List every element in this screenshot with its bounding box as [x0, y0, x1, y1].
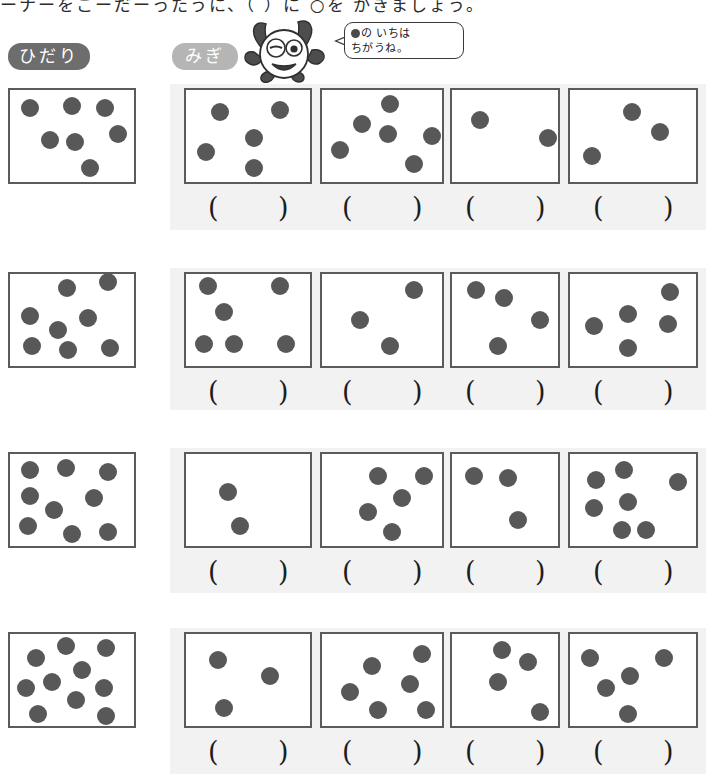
dot-marker [41, 131, 59, 149]
choice-box[interactable] [450, 272, 560, 368]
dot-marker [489, 337, 507, 355]
answer-paren-open: ( [465, 738, 476, 765]
choice-box[interactable] [450, 632, 560, 728]
dot-marker [17, 679, 35, 697]
choice-box[interactable] [450, 88, 560, 184]
choice-box[interactable] [184, 632, 312, 728]
dot-marker [659, 315, 677, 333]
answer-paren-close: ) [412, 738, 423, 765]
label-left-hidari: ひだり [8, 43, 90, 70]
answer-paren-open: ( [465, 194, 476, 221]
dot-marker [619, 705, 637, 723]
dot-marker [245, 129, 263, 147]
dot-marker [215, 699, 233, 717]
worksheet-page: ーナーをこーだーったうに、（ ）に ○を かきましょう。 ひだり みぎ の いち… [0, 0, 706, 778]
dot-marker [67, 691, 85, 709]
dot-marker [369, 701, 387, 719]
left-reference-box [8, 272, 136, 368]
choice-box[interactable] [184, 88, 312, 184]
dot-marker [585, 499, 603, 517]
answer-paren-close: ) [663, 194, 674, 221]
answer-paren-close: ) [663, 738, 674, 765]
choice-box[interactable] [568, 632, 698, 728]
answer-paren-close: ) [535, 558, 546, 585]
choice-box[interactable] [568, 272, 698, 368]
dot-marker [97, 639, 115, 657]
dot-marker [359, 503, 377, 521]
answer-paren-close: ) [278, 558, 289, 585]
choice-box[interactable] [320, 272, 444, 368]
black-circle-icon [351, 29, 360, 38]
dot-marker [423, 127, 441, 145]
choice-box[interactable] [568, 452, 698, 548]
dot-marker [57, 459, 75, 477]
dot-marker [531, 703, 549, 721]
answer-paren-open: ( [593, 558, 604, 585]
dot-marker [101, 339, 119, 357]
dot-marker [401, 675, 419, 693]
answer-paren-open: ( [342, 378, 353, 405]
mascot-speech-bubble: の いちは ちがうね。 [344, 22, 464, 59]
answer-paren-close: ) [278, 738, 289, 765]
dot-marker [499, 469, 517, 487]
dot-marker [57, 637, 75, 655]
dot-marker [661, 283, 679, 301]
top-instruction-text: ーナーをこーだーったうに、（ ）に ○を かきましょう。 [0, 0, 706, 13]
dot-marker [465, 467, 483, 485]
dot-marker [271, 101, 289, 119]
dot-marker [99, 523, 117, 541]
dot-marker [509, 511, 527, 529]
answer-paren-close: ) [278, 194, 289, 221]
answer-paren-open: ( [593, 378, 604, 405]
dot-marker [413, 645, 431, 663]
dot-marker [97, 707, 115, 725]
dot-marker [58, 279, 76, 297]
dot-marker [623, 103, 641, 121]
dot-marker [66, 133, 84, 151]
dot-marker [331, 141, 349, 159]
answer-paren-open: ( [465, 558, 476, 585]
dot-marker [655, 649, 673, 667]
dot-marker [471, 111, 489, 129]
dot-marker [619, 305, 637, 323]
answer-paren-close: ) [535, 738, 546, 765]
dot-marker [29, 705, 47, 723]
dot-marker [23, 337, 41, 355]
choice-box[interactable] [450, 452, 560, 548]
dot-marker [199, 277, 217, 295]
answer-paren-open: ( [342, 738, 353, 765]
dot-marker [277, 335, 295, 353]
dot-marker [245, 159, 263, 177]
dot-marker [231, 517, 249, 535]
dot-marker [219, 483, 237, 501]
choice-box[interactable] [320, 632, 444, 728]
dot-marker [271, 277, 289, 295]
dot-marker [96, 99, 114, 117]
answer-paren-open: ( [208, 738, 219, 765]
dot-marker [619, 339, 637, 357]
dot-marker [19, 517, 37, 535]
choice-box[interactable] [320, 452, 444, 548]
dot-marker [45, 501, 63, 519]
dot-marker [651, 123, 669, 141]
choice-box[interactable] [568, 88, 698, 184]
dot-marker [381, 95, 399, 113]
mascot-character-icon [236, 18, 344, 84]
dot-marker [81, 159, 99, 177]
choice-box[interactable] [320, 88, 444, 184]
choice-box[interactable] [184, 452, 312, 548]
dot-marker [59, 341, 77, 359]
dot-marker [353, 115, 371, 133]
dot-marker [211, 103, 229, 121]
dot-marker [493, 641, 511, 659]
dot-marker [417, 701, 435, 719]
answer-paren-open: ( [342, 194, 353, 221]
choice-box[interactable] [184, 272, 312, 368]
left-reference-box [8, 632, 136, 728]
dot-marker [519, 653, 537, 671]
dot-marker [495, 289, 513, 307]
dot-marker [415, 467, 433, 485]
dot-marker [539, 129, 557, 147]
dot-marker [109, 125, 127, 143]
dot-marker [637, 521, 655, 539]
